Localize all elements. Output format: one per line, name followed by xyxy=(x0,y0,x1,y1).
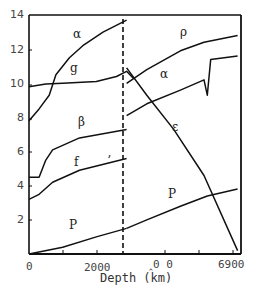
curve-label: α xyxy=(160,67,168,81)
curve-label: g xyxy=(70,61,78,75)
series-line xyxy=(127,36,238,84)
x-tick-label: 0 xyxy=(26,260,33,273)
x-tick-label: ‸0 0 xyxy=(149,258,173,271)
data-series xyxy=(29,20,238,254)
series-line xyxy=(29,71,133,86)
curve-label: f xyxy=(74,155,78,169)
y-tick-label: 10 xyxy=(2,77,24,90)
x-axis-label: Depth (km) xyxy=(100,271,172,285)
series-line xyxy=(29,129,127,177)
curve-label: α xyxy=(73,27,81,41)
y-tick-label: 8 xyxy=(2,111,24,124)
y-tick-label: 4 xyxy=(2,179,24,192)
chart-canvas xyxy=(0,0,254,294)
curve-label: ε xyxy=(172,120,178,134)
y-tick-label: 2 xyxy=(2,213,24,226)
y-tick-label: 14 xyxy=(2,8,24,21)
y-tick-label: 12 xyxy=(2,43,24,56)
plot-frame xyxy=(29,15,241,254)
curve-label: ʼ xyxy=(107,154,111,168)
x-tick-label: 6900 xyxy=(218,258,245,271)
curve-label: ρ xyxy=(180,25,187,39)
y-tick-label: 6 xyxy=(2,145,24,158)
curve-label: P xyxy=(168,187,176,201)
series-line xyxy=(127,68,238,251)
curve-label: β xyxy=(78,115,85,129)
curve-label: P xyxy=(69,218,77,232)
series-line xyxy=(127,56,238,116)
series-line xyxy=(127,189,238,228)
series-line xyxy=(29,228,127,254)
